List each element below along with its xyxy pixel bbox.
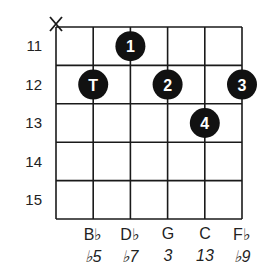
fret-number-15: 15: [12, 191, 42, 208]
fret-number-14: 14: [12, 153, 42, 170]
interval-flat-9: ♭9: [222, 247, 262, 266]
interval-13: 13: [185, 247, 225, 265]
fret-number-13: 13: [12, 114, 42, 131]
finger-dot-2: 2: [153, 70, 183, 100]
finger-dot-1: 1: [115, 31, 145, 61]
interval-3: 3: [148, 247, 188, 265]
interval-flat-5: ♭5: [73, 247, 113, 266]
note-label-d-flat: D♭: [110, 225, 150, 244]
svg-text:4: 4: [200, 115, 209, 132]
note-label-g: G: [148, 225, 188, 243]
note-label-f-flat: F♭: [222, 225, 262, 244]
note-label-b-flat: B♭: [73, 225, 113, 244]
chord-diagram: 1T234 11 12 13 14 15 B♭ D♭ G C F♭ ♭5 ♭7 …: [0, 0, 272, 276]
svg-text:T: T: [88, 77, 98, 94]
note-label-c: C: [185, 225, 225, 243]
svg-text:2: 2: [163, 77, 172, 94]
interval-flat-7: ♭7: [110, 247, 150, 266]
fret-number-12: 12: [12, 76, 42, 93]
finger-dot-3: 3: [227, 70, 257, 100]
fret-number-11: 11: [12, 37, 42, 54]
svg-text:3: 3: [238, 77, 247, 94]
svg-text:1: 1: [126, 38, 135, 55]
finger-dot-t: T: [78, 70, 108, 100]
finger-dot-4: 4: [190, 108, 220, 138]
